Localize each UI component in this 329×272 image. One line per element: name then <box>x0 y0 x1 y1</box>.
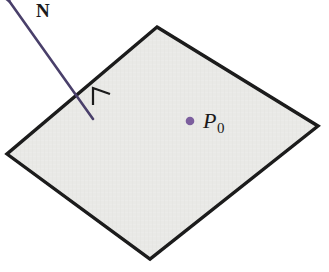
point-p0-letter: P <box>203 108 216 133</box>
normal-vector-label: N <box>36 1 50 20</box>
plane-normal-vector-figure: N P0 <box>0 0 329 272</box>
point-p0-dot <box>186 117 195 126</box>
point-p0-subscript: 0 <box>217 120 225 136</box>
figure-canvas <box>0 0 329 272</box>
point-p0-label: P0 <box>203 110 224 136</box>
